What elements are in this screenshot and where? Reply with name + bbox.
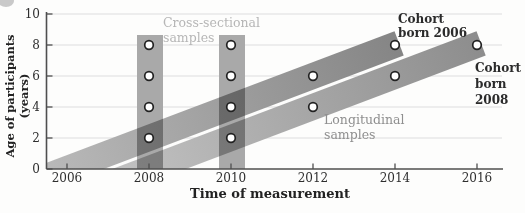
data-point-2008-age-6 xyxy=(145,72,154,81)
sample-bands xyxy=(22,35,481,186)
data-point-2008-age-8 xyxy=(145,41,154,50)
data-point-2010-age-6 xyxy=(227,72,236,81)
data-point-2016-age-8 xyxy=(473,41,482,50)
x-axis-title: Time of measurement xyxy=(160,186,380,201)
data-point-2008-age-2 xyxy=(145,134,154,143)
cohort-2008-label-line1: Cohort xyxy=(475,60,521,76)
y-tick-label-6: 6 xyxy=(32,69,40,83)
cohort-born-2008-label: Cohort born 2008 xyxy=(475,60,521,108)
data-point-2014-age-8 xyxy=(391,41,400,50)
y-axis-title: Age of participants (years) xyxy=(3,16,31,176)
longitudinal-label-line1: Longitudinal xyxy=(324,112,404,127)
y-tick-label-8: 8 xyxy=(32,38,40,52)
cohort-2008-label-line3: 2008 xyxy=(475,92,521,108)
cross-sectional-samples-label: Cross-sectional samples xyxy=(163,15,260,45)
x-tick-label-2008: 2008 xyxy=(134,171,165,185)
data-point-2008-age-4 xyxy=(145,103,154,112)
y-tick-label-2: 2 xyxy=(32,131,40,145)
cohort-2006-label-line2: born 2006 xyxy=(398,26,467,40)
cohort-born-2006-label: Cohort born 2006 xyxy=(398,12,467,40)
data-point-2014-age-6 xyxy=(391,72,400,81)
y-tick-label-4: 4 xyxy=(32,100,40,114)
x-tick-label-2016: 2016 xyxy=(462,171,493,185)
y-tick-label-0: 0 xyxy=(32,162,40,176)
x-tick-label-2012: 2012 xyxy=(298,171,329,185)
cross-sectional-label-line1: Cross-sectional xyxy=(163,15,260,30)
x-tick-label-2006: 2006 xyxy=(52,171,83,185)
cohort-2006-label-line1: Cohort xyxy=(398,12,467,26)
data-point-2010-age-4 xyxy=(227,103,236,112)
data-point-2012-age-4 xyxy=(309,103,318,112)
data-point-2012-age-6 xyxy=(309,72,318,81)
x-tick-label-2014: 2014 xyxy=(380,171,411,185)
scan-artifact xyxy=(0,0,14,7)
longitudinal-samples-label: Longitudinal samples xyxy=(324,112,404,142)
x-tick-label-2010: 2010 xyxy=(216,171,247,185)
cross-sectional-label-line2: samples xyxy=(163,30,260,45)
longitudinal-label-line2: samples xyxy=(324,127,404,142)
cohort-sequential-design-chart: 2006200820102012201420160246810 Cross-se… xyxy=(0,0,525,213)
cohort-2008-label-line2: born xyxy=(475,76,521,92)
data-point-2010-age-2 xyxy=(227,134,236,143)
